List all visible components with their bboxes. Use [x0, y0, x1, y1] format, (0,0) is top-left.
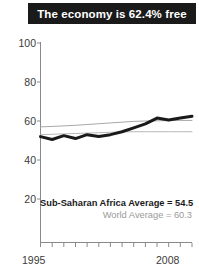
- y-tick-label-80: 80: [8, 77, 36, 87]
- x-tick-label-end: 2008: [156, 255, 179, 265]
- data-series-layer: [41, 116, 193, 139]
- economic-freedom-chart: The economy is 62.4% free: [0, 0, 199, 276]
- x-tick-label-start: 1995: [22, 255, 45, 265]
- series-line-1: [41, 116, 193, 139]
- y-tick-label-40: 40: [8, 155, 36, 165]
- legend-item-world-average: World Average = 60.3: [40, 209, 192, 221]
- y-tick-label-100: 100: [8, 38, 36, 48]
- y-tick-label-60: 60: [8, 116, 36, 126]
- legend-item-africa-average: Sub-Saharan Africa Average = 54.5: [40, 197, 192, 209]
- chart-legend: Sub-Saharan Africa Average = 54.5 World …: [40, 197, 192, 221]
- y-tick-label-20: 20: [8, 194, 36, 204]
- x-axis-ticks: [41, 243, 193, 247]
- plot-area: 100 80 60 40 20 1995 2008: [0, 0, 199, 276]
